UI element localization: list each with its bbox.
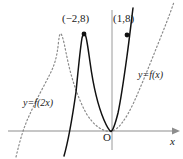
point-marker-neg2-8 bbox=[82, 32, 87, 37]
label-point-neg2-8: (−2,8) bbox=[62, 13, 89, 24]
label-curve-f-of-x: y=f(x) bbox=[138, 70, 163, 80]
label-point-1-8: (1,8) bbox=[113, 13, 134, 24]
label-curve-f-of-2x: y=f(2x) bbox=[23, 98, 53, 108]
graph-figure: (−2,8) (1,8) y=f(2x) y=f(x) O x bbox=[0, 0, 183, 159]
curve-y-equals-f-of-2x bbox=[64, 8, 133, 156]
label-x-axis: x bbox=[170, 136, 175, 147]
label-origin: O bbox=[103, 132, 111, 143]
point-marker-1-8 bbox=[125, 33, 130, 38]
x-axis-arrow-icon bbox=[172, 128, 180, 135]
